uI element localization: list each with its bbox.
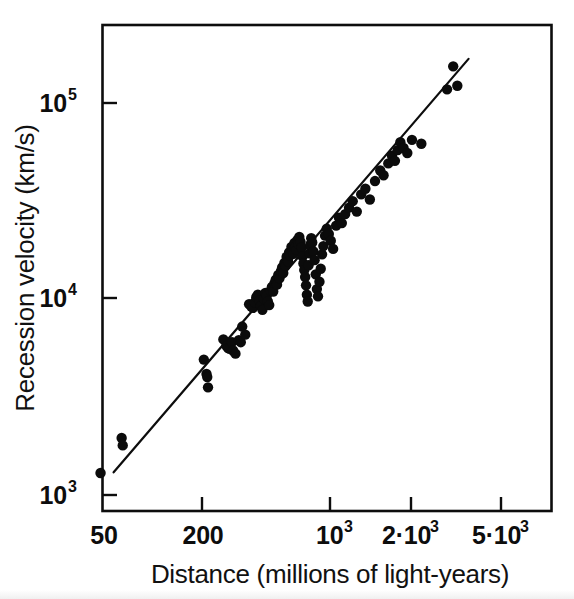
- y-axis-ticks: [103, 103, 118, 495]
- x-axis-ticks: [202, 497, 501, 512]
- y-tick-label-1e5-base: 10: [40, 89, 67, 117]
- data-point: [314, 277, 324, 287]
- y-tick-label-1e4-exp: 4: [68, 281, 77, 298]
- data-point: [390, 156, 400, 166]
- y-tick-label-1e3-exp: 3: [68, 478, 77, 495]
- data-point: [95, 468, 105, 478]
- x-tick-label-2e3-base: 2·10: [382, 521, 431, 549]
- x-tick-label-5e3-exp: 3: [520, 518, 529, 535]
- x-tick-label-1e3-base: 10: [316, 521, 343, 549]
- scatter-plot-canvas: 10 5 10 4 10 3 50 200 10 3 2·10 3 5·10 3…: [0, 0, 574, 599]
- x-tick-label-2e3-exp: 3: [430, 518, 439, 535]
- y-tick-label-1e4-base: 10: [40, 284, 67, 312]
- data-point: [230, 348, 240, 358]
- data-point: [402, 148, 412, 158]
- data-point: [240, 329, 250, 339]
- data-point: [301, 280, 311, 290]
- data-point: [448, 61, 458, 71]
- y-axis-tick-labels: 10 5 10 4 10 3: [40, 86, 77, 509]
- data-point: [452, 81, 462, 91]
- data-point: [370, 176, 380, 186]
- data-point: [442, 84, 452, 94]
- hubble-diagram-figure: 10 5 10 4 10 3 50 200 10 3 2·10 3 5·10 3…: [0, 0, 574, 599]
- data-point: [307, 237, 317, 247]
- data-point: [264, 300, 274, 310]
- x-tick-label-50: 50: [90, 521, 117, 549]
- data-point: [337, 218, 347, 228]
- x-axis-tick-labels: 50 200 10 3 2·10 3 5·10 3: [90, 518, 529, 549]
- data-point: [203, 382, 213, 392]
- y-tick-label-1e3-base: 10: [40, 481, 67, 509]
- data-point: [416, 139, 426, 149]
- y-axis-title: Recession velocity (km/s): [10, 124, 40, 411]
- data-point: [199, 354, 209, 364]
- x-axis-title: Distance (millions of light-years): [151, 559, 509, 589]
- data-point: [365, 194, 375, 204]
- data-point: [360, 184, 370, 194]
- plot-frame: [103, 25, 552, 511]
- data-point: [316, 264, 326, 274]
- data-point: [303, 296, 313, 306]
- hubble-fit-line: [114, 59, 469, 472]
- data-point: [378, 170, 388, 180]
- data-point: [118, 440, 128, 450]
- x-tick-label-1e3-exp: 3: [344, 518, 353, 535]
- data-point: [202, 372, 212, 382]
- scatter-points-group: [95, 61, 462, 478]
- x-tick-label-200: 200: [182, 521, 223, 549]
- data-point: [352, 206, 362, 216]
- y-tick-label-1e5-exp: 5: [68, 86, 77, 103]
- data-point: [328, 244, 338, 254]
- x-tick-label-5e3-base: 5·10: [472, 521, 521, 549]
- data-point: [348, 196, 358, 206]
- data-point: [313, 291, 323, 301]
- data-point: [407, 135, 417, 145]
